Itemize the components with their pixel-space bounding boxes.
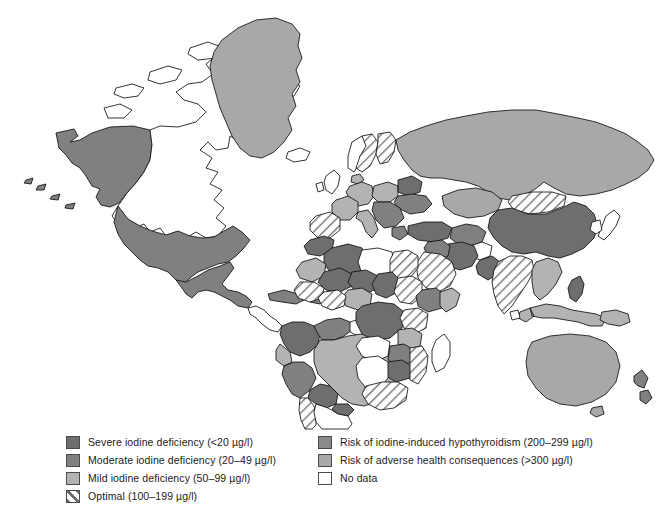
region-new-zealand — [634, 370, 652, 404]
legend-swatch-mild — [66, 472, 80, 485]
map-legend: Severe iodine deficiency (<20 µg/l) Mode… — [0, 434, 662, 524]
region-finland — [376, 132, 396, 164]
region-iberia — [310, 212, 340, 238]
region-zimbabwe — [386, 360, 412, 382]
legend-item-optimal: Optimal (100–199 µg/l) — [66, 488, 316, 505]
legend-swatch-optimal — [66, 490, 80, 503]
region-turkey — [408, 222, 452, 242]
legend-swatch-no-data — [318, 472, 332, 485]
legend-label-optimal: Optimal (100–199 µg/l) — [88, 490, 197, 503]
legend-item-moderate: Moderate iodine deficiency (20–49 µg/l) — [66, 452, 316, 469]
legend-label-hypothyroidism: Risk of iodine-induced hypothyroidism (2… — [340, 436, 593, 449]
region-india — [492, 256, 534, 314]
legend-label-moderate: Moderate iodine deficiency (20–49 µg/l) — [88, 454, 276, 467]
legend-column-right: Risk of iodine-induced hypothyroidism (2… — [318, 434, 658, 488]
world-map — [0, 0, 662, 430]
world-map-svg — [0, 0, 662, 430]
region-aleutian-islands — [24, 178, 75, 209]
region-united-kingdom — [316, 170, 340, 194]
region-indonesia — [518, 304, 606, 326]
legend-label-no-data: No data — [340, 472, 377, 485]
region-madagascar — [432, 334, 450, 372]
legend-column-left: Severe iodine deficiency (<20 µg/l) Mode… — [66, 434, 316, 506]
region-greece — [392, 226, 408, 240]
legend-label-severe: Severe iodine deficiency (<20 µg/l) — [88, 436, 253, 449]
region-somalia — [440, 288, 460, 312]
region-belarus — [398, 176, 422, 196]
region-australia — [526, 334, 620, 406]
legend-item-hypothyroidism: Risk of iodine-induced hypothyroidism (2… — [318, 434, 658, 451]
legend-label-mild: Mild iodine deficiency (50–99 µg/l) — [88, 472, 250, 485]
region-poland — [372, 182, 398, 202]
region-drc — [356, 302, 404, 340]
legend-swatch-hypothyroidism — [318, 436, 332, 449]
region-chile — [299, 398, 316, 429]
iodine-status-world-map-figure: Severe iodine deficiency (<20 µg/l) Mode… — [0, 0, 662, 524]
region-tasmania — [590, 406, 604, 417]
region-mozambique — [410, 346, 428, 384]
region-sri-lanka — [510, 310, 520, 320]
legend-swatch-moderate — [66, 454, 80, 467]
legend-swatch-severe — [66, 436, 80, 449]
legend-swatch-adverse — [318, 454, 332, 467]
legend-item-mild: Mild iodine deficiency (50–99 µg/l) — [66, 470, 316, 487]
legend-item-no-data: No data — [318, 470, 658, 487]
region-south-africa — [362, 382, 408, 410]
region-southeast-asia — [532, 258, 562, 300]
legend-label-adverse: Risk of adverse health consequences (>30… — [340, 454, 573, 467]
region-central-america — [248, 306, 282, 332]
region-iceland — [286, 148, 310, 162]
region-philippines — [568, 276, 584, 302]
region-kazakhstan — [442, 188, 502, 218]
legend-item-adverse: Risk of adverse health consequences (>30… — [318, 452, 658, 469]
legend-item-severe: Severe iodine deficiency (<20 µg/l) — [66, 434, 316, 451]
region-papua-new-guinea — [600, 310, 630, 326]
country-polygons — [24, 18, 654, 429]
region-russian-federation — [396, 110, 654, 200]
